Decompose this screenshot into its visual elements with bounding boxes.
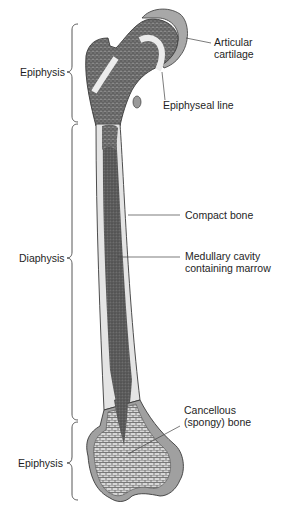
label-diaphysis: Diaphysis xyxy=(19,252,65,264)
brace-proximal-epiphysis xyxy=(67,24,78,122)
label-cancellous-bone: Cancellous (spongy) bone xyxy=(184,404,251,428)
label-articular-cartilage: Articular cartilage xyxy=(214,36,254,60)
label-distal-epiphysis: Epiphysis xyxy=(18,457,63,469)
label-proximal-epiphysis: Epiphysis xyxy=(20,66,65,78)
distal-epiphysis-shape xyxy=(87,397,184,501)
label-epiphyseal-line: Epiphyseal line xyxy=(163,99,234,111)
brace-distal-epiphysis xyxy=(67,422,78,500)
diaphysis-shaft-shape xyxy=(96,124,140,445)
label-compact-bone: Compact bone xyxy=(185,209,253,221)
leader-epiphyseal xyxy=(162,72,165,100)
leader-articular xyxy=(186,38,211,43)
brace-diaphysis xyxy=(67,124,78,420)
label-medullary-cavity: Medullary cavity containing marrow xyxy=(185,250,271,274)
